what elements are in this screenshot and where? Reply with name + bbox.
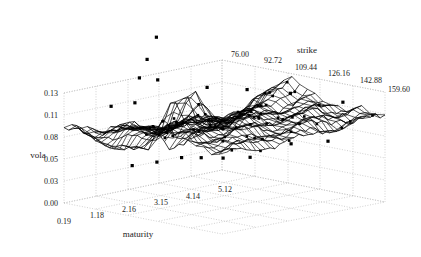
strike-tick-2: 109.44 — [295, 63, 317, 72]
scatter-point — [290, 142, 293, 145]
volatility-surface-figure: 0.13 0.11 0.08 0.05 0.03 0.00 vola 0.19 … — [0, 0, 421, 257]
strike-tick-labels: 76.00 92.72 109.44 126.16 142.88 159.60 — [231, 50, 410, 94]
scatter-point — [253, 137, 256, 140]
scatter-point — [246, 135, 249, 138]
scatter-point — [215, 117, 218, 120]
scatter-point — [261, 138, 264, 141]
scatter-point — [152, 125, 155, 128]
maturity-tick-2: 2.16 — [122, 205, 136, 214]
scatter-point — [249, 123, 252, 126]
scatter-point — [170, 127, 173, 130]
scatter-point — [253, 116, 256, 119]
scatter-point — [176, 123, 179, 126]
scatter-point — [145, 133, 148, 136]
scatter-point — [214, 125, 217, 128]
maturity-tick-5: 5.12 — [218, 185, 232, 194]
vola-tick-3: 0.05 — [44, 155, 58, 164]
scatter-point — [260, 104, 263, 107]
scatter-point — [326, 140, 329, 143]
scatter-point — [131, 127, 134, 130]
vola-tick-2: 0.08 — [44, 133, 58, 142]
scatter-point — [294, 91, 297, 94]
scatter-point — [265, 122, 268, 125]
scatter-point — [209, 123, 212, 126]
scatter-point — [246, 88, 249, 91]
scatter-point — [204, 113, 207, 116]
strike-axis-label: strike — [297, 45, 317, 55]
scatter-point — [175, 121, 178, 124]
scatter-point — [173, 117, 176, 120]
scatter-point — [180, 156, 183, 159]
scatter-point — [200, 156, 203, 159]
scatter-point — [282, 118, 285, 121]
scatter-point — [341, 127, 344, 130]
scatter-point — [271, 95, 274, 98]
scatter-point — [237, 111, 240, 114]
scatter-point — [249, 156, 252, 159]
maturity-tick-4: 4.14 — [186, 192, 200, 201]
scatter-point — [155, 36, 158, 39]
scatter-point — [166, 132, 169, 135]
scatter-point — [316, 123, 319, 126]
scatter-point — [298, 123, 301, 126]
scatter-point — [168, 125, 171, 128]
scatter-point — [164, 137, 167, 140]
scatter-point — [371, 114, 374, 117]
scatter-point — [286, 81, 289, 84]
scatter-point — [206, 86, 209, 89]
strike-tick-3: 126.16 — [328, 69, 350, 78]
scatter-point — [197, 114, 200, 117]
strike-tick-0: 76.00 — [231, 50, 249, 59]
scatter-point — [349, 120, 352, 123]
scatter-point — [303, 115, 306, 118]
scatter-point — [257, 104, 260, 107]
scatter-point — [198, 130, 201, 133]
vola-tick-5: 0.00 — [44, 199, 58, 208]
scatter-point — [265, 104, 268, 107]
scatter-point — [223, 136, 226, 139]
scatter-point — [133, 101, 136, 104]
vola-tick-labels: 0.13 0.11 0.08 0.05 0.03 0.00 — [44, 89, 58, 208]
scatter-point — [197, 103, 200, 106]
scatter-point — [318, 104, 321, 107]
scatter-point — [291, 116, 294, 119]
scatter-point — [222, 157, 225, 160]
scatter-point — [221, 127, 224, 130]
vola-tick-0: 0.13 — [44, 89, 58, 98]
strike-tick-1: 92.72 — [264, 56, 282, 65]
scatter-point — [259, 113, 262, 116]
scatter-point — [289, 92, 292, 95]
maturity-tick-3: 3.15 — [154, 198, 168, 207]
scatter-point — [207, 118, 210, 121]
scatter-point — [288, 139, 291, 142]
surface-wireframe — [64, 77, 385, 155]
vola-axis-label: vola — [30, 150, 46, 160]
scatter-point — [239, 112, 242, 115]
scatter-point — [268, 91, 271, 94]
scatter-point — [158, 134, 161, 137]
scatter-point — [290, 130, 293, 133]
scatter-point — [341, 101, 344, 104]
scatter-point — [277, 116, 280, 119]
maturity-tick-0: 0.19 — [57, 217, 71, 226]
plot-canvas: 0.13 0.11 0.08 0.05 0.03 0.00 vola 0.19 … — [0, 0, 421, 257]
scatter-point — [219, 122, 222, 125]
scatter-point — [258, 116, 261, 119]
scatter-point — [171, 134, 174, 137]
scatter-point — [222, 140, 225, 143]
scatter-point — [192, 128, 195, 131]
strike-tick-4: 142.88 — [360, 76, 382, 85]
scatter-point — [155, 161, 158, 164]
scatter-point — [248, 114, 251, 117]
scatter-point — [210, 120, 213, 123]
scatter-point — [110, 105, 113, 108]
strike-tick-5: 159.60 — [388, 85, 410, 94]
grid-floor — [64, 170, 385, 234]
scatter-point — [161, 120, 164, 123]
scatter-point — [146, 58, 149, 61]
scatter-point — [138, 76, 141, 79]
scatter-point — [182, 121, 185, 124]
scatter-point — [149, 127, 152, 130]
scatter-point — [156, 78, 159, 81]
scatter-point — [131, 164, 134, 167]
